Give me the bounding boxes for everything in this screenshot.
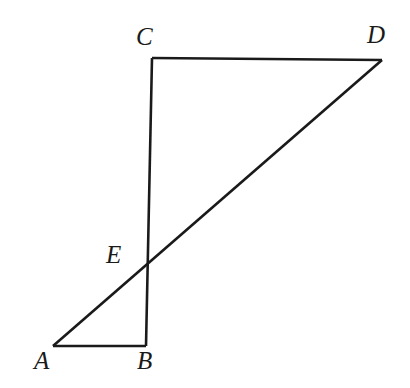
vertex-label-c: C <box>136 24 153 49</box>
segment-AD <box>53 60 382 346</box>
vertex-label-d: D <box>367 22 385 47</box>
vertex-label-a: A <box>34 348 49 373</box>
figure-canvas <box>0 0 410 388</box>
vertex-label-e: E <box>106 242 121 267</box>
vertex-label-b: B <box>137 348 152 373</box>
segment-BC <box>146 58 152 346</box>
geometry-figure: A B C D E <box>0 0 410 388</box>
segment-CD <box>152 58 382 60</box>
